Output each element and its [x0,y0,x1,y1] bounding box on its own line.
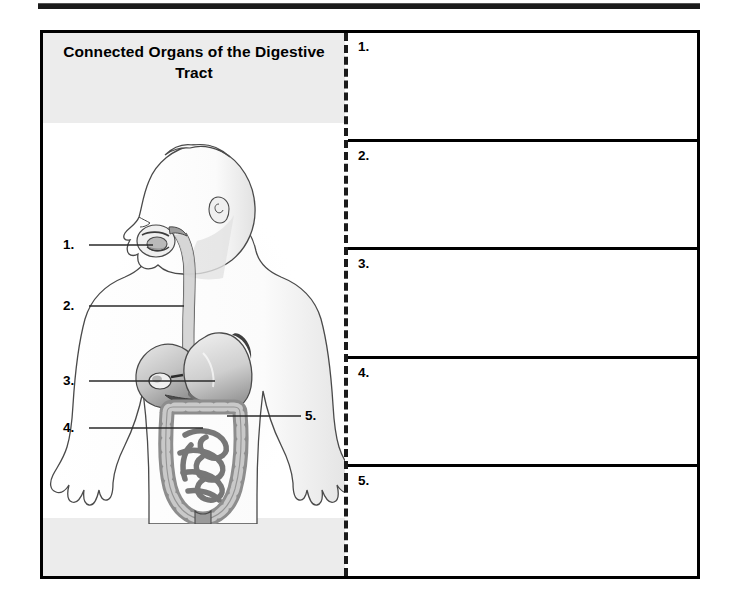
callout-number-1: 1. [63,237,74,252]
answer-input-3[interactable] [358,280,689,350]
answer-row[interactable]: 5. [348,467,697,576]
answer-number-1: 1. [358,39,369,54]
answer-row[interactable]: 3. [348,250,697,359]
answer-input-1[interactable] [358,63,689,133]
answer-number-2: 2. [358,148,369,163]
callout-number-2: 2. [63,298,74,313]
callout-number-5: 5. [305,408,316,423]
bottom-band [43,518,345,576]
answer-row[interactable]: 4. [348,359,697,468]
worksheet-frame: Connected Organs of the Digestive Tract [40,30,700,579]
answer-number-4: 4. [358,365,369,380]
callout-number-3: 3. [63,373,74,388]
answer-panel: 1. 2. 3. 4. 5. [348,33,697,576]
digestive-tract-figure: 1. 2. 3. 4. 5. [43,123,345,524]
callout-number-4: 4. [63,420,74,435]
answer-row[interactable]: 2. [348,142,697,251]
answer-input-5[interactable] [358,497,689,570]
answer-number-3: 3. [358,256,369,271]
answer-input-2[interactable] [358,172,689,242]
answer-number-5: 5. [358,473,369,488]
page-title: Connected Organs of the Digestive Tract [53,41,335,83]
ear-icon [209,197,229,223]
page-top-rule [38,3,700,9]
answer-row[interactable]: 1. [348,33,697,142]
answer-input-4[interactable] [358,389,689,459]
human-body-illustration [43,123,345,524]
diagram-panel: Connected Organs of the Digestive Tract [43,33,345,576]
